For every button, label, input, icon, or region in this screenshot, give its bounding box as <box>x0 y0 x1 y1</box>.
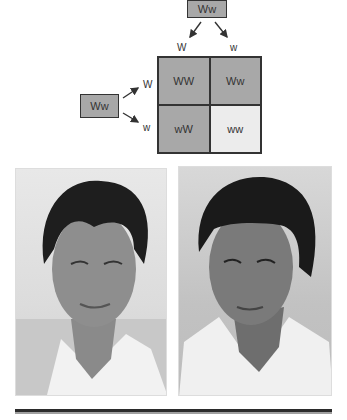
cell-genotype: ww <box>227 123 243 135</box>
punnett-cell-wW: wW <box>158 105 210 153</box>
left-allele-recessive: w <box>143 122 150 133</box>
punnett-cell-ww: ww <box>210 105 262 153</box>
parent-left-genotype-box: Ww <box>80 94 119 118</box>
punnett-square: WW Ww wW ww <box>157 56 262 154</box>
left-allele-dominant: W <box>143 79 152 90</box>
punnett-cell-WW: WW <box>158 57 210 105</box>
arrow-top-right <box>215 22 227 37</box>
top-allele-recessive: w <box>230 42 237 53</box>
top-allele-dominant: W <box>177 42 186 53</box>
arrow-top-left <box>190 22 201 37</box>
photo-straight-hairline <box>178 166 332 396</box>
divider-rule-light <box>15 412 332 414</box>
arrow-left-up <box>123 88 138 98</box>
cell-genotype: wW <box>175 123 193 135</box>
arrow-left-down <box>123 113 138 122</box>
cell-genotype: Ww <box>226 75 244 87</box>
punnett-cell-Ww: Ww <box>210 57 262 105</box>
cell-genotype: WW <box>173 75 194 87</box>
photo-widows-peak <box>15 168 167 396</box>
parent-left-genotype: Ww <box>90 100 108 112</box>
